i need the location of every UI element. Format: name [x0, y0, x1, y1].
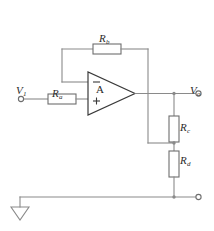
- resistor-b-label: Rb: [99, 33, 109, 46]
- ground-icon: [11, 207, 29, 220]
- reference-terminal-node: [196, 194, 201, 199]
- resistor-d-label: Rd: [180, 155, 190, 168]
- input-source-label: V1: [16, 85, 26, 98]
- output-node-label: Vo: [190, 85, 200, 98]
- resistor-a-label: Ra: [52, 88, 62, 101]
- resistor-d-body: [169, 151, 179, 177]
- circuit-diagram: Rb Ra Rc Rd V1 Vo A: [0, 0, 214, 231]
- resistor-c-label: Rc: [180, 122, 190, 135]
- junction-output-divider: [172, 92, 175, 95]
- junction-divider-tap: [172, 141, 175, 144]
- resistor-c-body: [169, 116, 179, 142]
- opamp-label: A: [96, 84, 104, 95]
